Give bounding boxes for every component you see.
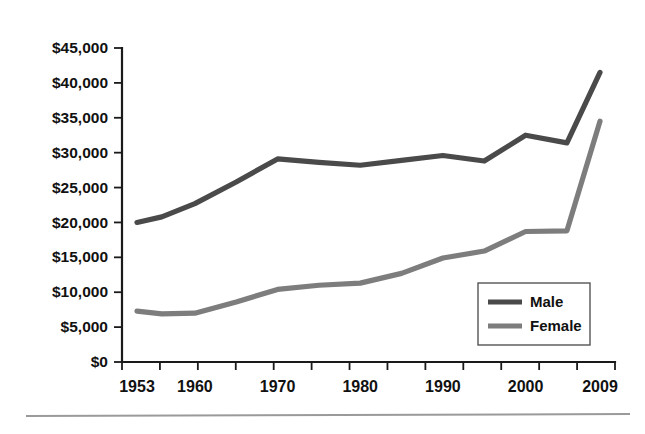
y-tick-label: $10,000 [52, 283, 108, 300]
x-tick-label: 2000 [508, 378, 544, 395]
y-tick-label: $15,000 [52, 248, 108, 265]
x-tick-label: 1960 [177, 378, 213, 395]
line-chart: $0$5,000$10,000$15,000$20,000$25,000$30,… [0, 0, 645, 434]
y-tick-label: $35,000 [52, 109, 108, 126]
x-tick-label: 1970 [260, 378, 296, 395]
y-tick-label: $25,000 [52, 179, 108, 196]
legend-label-male: Male [530, 293, 563, 310]
legend-label-female: Female [530, 317, 582, 334]
y-tick-label: $5,000 [61, 318, 108, 335]
y-tick-label: $30,000 [52, 144, 108, 161]
y-tick-label: $45,000 [52, 39, 108, 56]
x-tick-label: 1953 [119, 378, 155, 395]
chart-legend: MaleFemale [478, 283, 590, 345]
y-tick-label: $40,000 [52, 74, 108, 91]
y-tick-label: $0 [91, 353, 108, 370]
x-axis: 1953196019701980199020002009 [119, 378, 618, 395]
y-tick-label: $20,000 [52, 214, 108, 231]
x-tick-label: 2009 [582, 378, 618, 395]
chart-figure: $0$5,000$10,000$15,000$20,000$25,000$30,… [0, 0, 645, 434]
x-tick-label: 1990 [425, 378, 461, 395]
x-tick-label: 1980 [342, 378, 378, 395]
